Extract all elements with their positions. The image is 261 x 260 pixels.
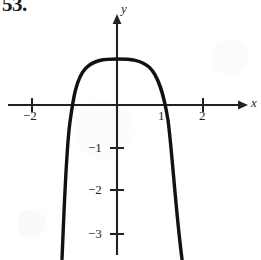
x-tick-label--2: −2	[23, 108, 37, 124]
graph-canvas	[0, 0, 261, 260]
textbook-figure: 53. y x −2 1 2 −1 −2 −3	[0, 0, 261, 260]
y-tick-label--3: −3	[88, 226, 102, 242]
y-tick-label--2: −2	[88, 182, 102, 198]
x-tick-label-1: 1	[158, 108, 165, 124]
y-tick-label--1: −1	[88, 140, 102, 156]
x-tick-label-2: 2	[199, 108, 206, 124]
y-axis-label: y	[121, 1, 127, 17]
plot-curve	[62, 59, 182, 259]
x-axis-arrow	[238, 101, 248, 110]
x-axis-label: x	[251, 95, 257, 111]
